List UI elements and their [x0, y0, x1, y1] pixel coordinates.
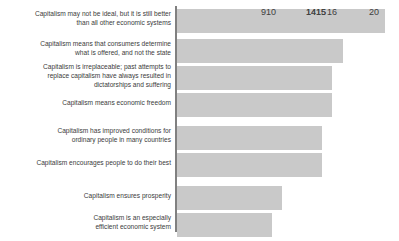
bar-value-label: 20	[355, 0, 379, 24]
bar	[177, 93, 332, 117]
category-label: Capitalism is an especially efficient ec…	[4, 213, 171, 231]
bar	[177, 186, 282, 210]
bar	[177, 66, 332, 90]
category-label: Capitalism encourages people to do their…	[4, 158, 171, 167]
category-label: Capitalism has improved conditions for o…	[4, 126, 171, 144]
category-label: Capitalism ensures prosperity	[4, 191, 171, 200]
bar-value-label: 14	[292, 0, 316, 24]
category-label: Capitalism may not be ideal, but it is s…	[4, 9, 171, 27]
bar-value-label: 9	[242, 0, 266, 24]
bar-chart: Capitalism may not be ideal, but it is s…	[0, 0, 399, 241]
bar	[177, 39, 343, 63]
category-label: Capitalism means that consumers determin…	[4, 39, 171, 57]
bar	[177, 9, 385, 33]
category-label: Capitalism means economic freedom	[4, 98, 171, 107]
bar	[177, 213, 272, 237]
bar	[177, 126, 322, 150]
bar	[177, 153, 322, 177]
category-label: Capitalism is irreplaceable; past attemp…	[4, 62, 171, 90]
